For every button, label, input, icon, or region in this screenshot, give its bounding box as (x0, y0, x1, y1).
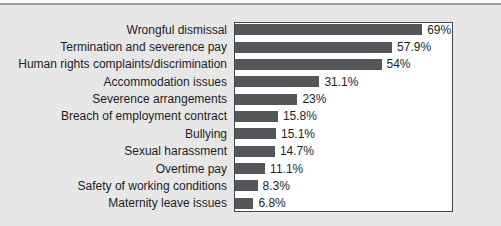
category-label: Breach of employment contract (0, 110, 227, 122)
category-label: Bullying (0, 128, 227, 140)
bar-value-label: 23% (302, 93, 326, 105)
bar-zone: 15.8% (227, 110, 501, 122)
bar-zone: 6.8% (227, 197, 501, 209)
bar-row: Safety of working conditions8.3% (0, 177, 501, 194)
bar (235, 24, 422, 35)
bar (235, 59, 382, 70)
bar (235, 42, 392, 53)
bar-value-label: 14.7% (280, 145, 314, 157)
bar (235, 180, 258, 191)
category-label: Human rights complaints/discrimination (0, 58, 227, 70)
bar-zone: 54% (227, 58, 501, 70)
bar (235, 76, 319, 87)
bar-value-label: 8.3% (263, 180, 290, 192)
category-label: Sexual harassment (0, 145, 227, 157)
bar (235, 163, 265, 174)
category-label: Maternity leave issues (0, 197, 227, 209)
bar-zone: 15.1% (227, 128, 501, 140)
bar (235, 94, 297, 105)
bar (235, 111, 278, 122)
bar (235, 198, 253, 209)
bar-row: Human rights complaints/discrimination54… (0, 56, 501, 73)
bar-value-label: 54% (387, 58, 411, 70)
bar-row: Breach of employment contract15.8% (0, 108, 501, 125)
category-label: Wrongful dismissal (0, 24, 227, 36)
category-label: Safety of working conditions (0, 180, 227, 192)
bar-value-label: 15.8% (283, 110, 317, 122)
bar-row: Bullying15.1% (0, 125, 501, 142)
bar-zone: 69% (227, 24, 501, 36)
bar-value-label: 57.9% (397, 41, 431, 53)
bar-zone: 8.3% (227, 180, 501, 192)
category-label: Severence arrangements (0, 93, 227, 105)
bar-zone: 31.1% (227, 76, 501, 88)
bar-rows: Wrongful dismissal69%Termination and sev… (0, 21, 501, 212)
category-label: Overtime pay (0, 163, 227, 175)
bar-zone: 14.7% (227, 145, 501, 157)
bar-row: Severence arrangements23% (0, 90, 501, 107)
bar-row: Overtime pay11.1% (0, 160, 501, 177)
bar-zone: 57.9% (227, 41, 501, 53)
bar-row: Maternity leave issues6.8% (0, 195, 501, 212)
bar-row: Termination and severence pay57.9% (0, 38, 501, 55)
bar-value-label: 11.1% (270, 163, 303, 175)
figure: Wrongful dismissal69%Termination and sev… (0, 0, 501, 226)
chart-canvas: Wrongful dismissal69%Termination and sev… (0, 5, 501, 226)
bar-value-label: 6.8% (258, 197, 285, 209)
category-label: Accommodation issues (0, 76, 227, 88)
bar (235, 146, 275, 157)
bar-row: Sexual harassment14.7% (0, 143, 501, 160)
bar-value-label: 15.1% (281, 128, 315, 140)
bar-value-label: 69% (427, 24, 451, 36)
bar-value-label: 31.1% (324, 76, 358, 88)
bar (235, 128, 276, 139)
bar-row: Accommodation issues31.1% (0, 73, 501, 90)
bar-row: Wrongful dismissal69% (0, 21, 501, 38)
bar-zone: 23% (227, 93, 501, 105)
bar-zone: 11.1% (227, 163, 501, 175)
category-label: Termination and severence pay (0, 41, 227, 53)
